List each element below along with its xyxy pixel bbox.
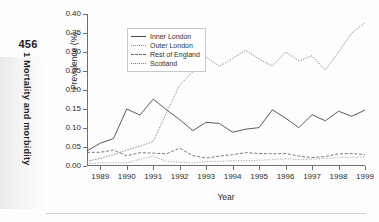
x-tick-mark [365, 166, 366, 170]
y-tick-label: 0.25 [65, 66, 81, 75]
legend-line-swatch [131, 33, 146, 40]
x-tick-mark [180, 166, 181, 170]
x-tick-mark [312, 166, 313, 170]
y-tick-label: 0.15 [65, 104, 81, 113]
x-tick-mark [339, 166, 340, 170]
legend-item: Scotland [131, 59, 200, 68]
x-tick-mark [233, 166, 234, 170]
x-tick-mark [206, 166, 207, 170]
legend-label: Inner London [150, 33, 191, 41]
legend-label: Outer London [150, 42, 193, 50]
book-page: 456 1 Mortality and morbidity Prevalence… [0, 0, 379, 222]
series-line [87, 156, 365, 164]
y-tick-label: 0.00 [65, 161, 81, 170]
legend-item: Rest of England [131, 50, 200, 59]
y-tick-label: 0.05 [65, 142, 81, 151]
x-axis-title: Year [87, 192, 365, 202]
x-tick-mark [100, 166, 101, 170]
y-tick-label: 0.40 [65, 9, 81, 18]
running-head: 1 Mortality and morbidity [22, 44, 32, 174]
x-tick-label: 1999 [348, 172, 379, 181]
x-tick-mark [153, 166, 154, 170]
y-tick-mark [83, 166, 87, 167]
page-gutter-shadow [0, 57, 42, 209]
line-chart-figure: Prevalence (%) Year 0.000.050.100.150.20… [55, 6, 373, 211]
page-divider-rule [46, 213, 366, 214]
chart-legend: Inner LondonOuter LondonRest of EnglandS… [127, 28, 206, 72]
legend-label: Scotland [150, 60, 177, 68]
x-tick-mark [259, 166, 260, 170]
x-tick-mark [127, 166, 128, 170]
series-line [87, 99, 365, 151]
legend-line-swatch [131, 51, 146, 58]
legend-item: Inner London [131, 32, 200, 41]
legend-item: Outer London [131, 41, 200, 50]
y-tick-label: 0.35 [65, 28, 81, 37]
y-tick-label: 0.30 [65, 47, 81, 56]
x-tick-mark [286, 166, 287, 170]
legend-line-swatch [131, 42, 146, 49]
legend-line-swatch [131, 60, 146, 67]
y-tick-label: 0.10 [65, 123, 81, 132]
plot-area: 0.000.050.100.150.200.250.300.350.40 198… [87, 14, 365, 166]
legend-label: Rest of England [150, 51, 200, 59]
y-tick-label: 0.20 [65, 85, 81, 94]
